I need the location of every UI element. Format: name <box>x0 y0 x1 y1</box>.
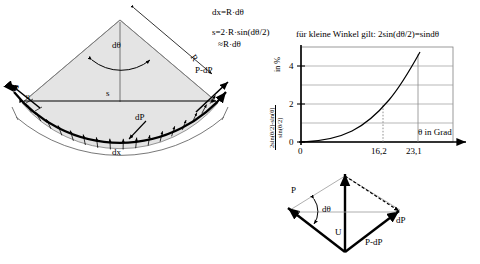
label-P-dP-right: P-dP <box>195 66 213 75</box>
formula-s-line2: ≈R·dθ <box>218 40 241 49</box>
label-dx: dx <box>112 148 121 157</box>
chart-ylabel-numerator: 2sin(θ/2)-sin(θ) <box>268 105 275 150</box>
formula-small-angle-note: für kleine Winkel gilt: 2sin(dθ/2)=sindθ <box>296 30 439 39</box>
chart-ylabel-unit: in % <box>274 57 282 72</box>
label-force-P-dP: P-dP <box>365 238 383 247</box>
chart-ytick-2: 2 <box>289 100 294 109</box>
formula-s-line1: s=2·R·sin(dθ/2) <box>212 28 269 37</box>
chart-ylabel-expression: 2sin(θ/2)-sin(θ) sin(θ/2) <box>268 105 284 150</box>
formula-dx: dx=R·dθ <box>212 8 244 17</box>
label-force-dtheta: dθ <box>322 205 331 214</box>
label-force-P: P <box>291 186 296 195</box>
chart-xlabel: θ in Grad <box>418 128 452 137</box>
label-dP: dP <box>135 113 145 122</box>
label-force-dP: dP <box>396 216 406 225</box>
chart-ytick-0: 0 <box>289 138 294 147</box>
label-force-U: U <box>335 228 342 237</box>
label-s: s <box>106 89 110 98</box>
label-u: u <box>26 93 30 101</box>
chart-ylabel-denominator: sin(θ/2) <box>275 105 283 150</box>
label-dtheta-sector: dθ <box>112 41 121 50</box>
chart-xtick-162: 16,2 <box>371 147 387 156</box>
label-P-left: P <box>14 84 19 93</box>
chart-xtick-0: 0 <box>298 147 303 156</box>
chart-xtick-231: 23,1 <box>406 147 422 156</box>
chart-ytick-4: 4 <box>289 62 294 71</box>
